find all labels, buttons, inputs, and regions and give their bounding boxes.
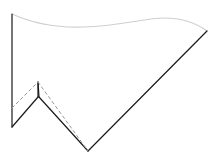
line-drawing-svg: Line drawing of a folded flag-like polyg… (0, 0, 219, 165)
figure-canvas: Line drawing of a folded flag-like polyg… (0, 0, 219, 165)
